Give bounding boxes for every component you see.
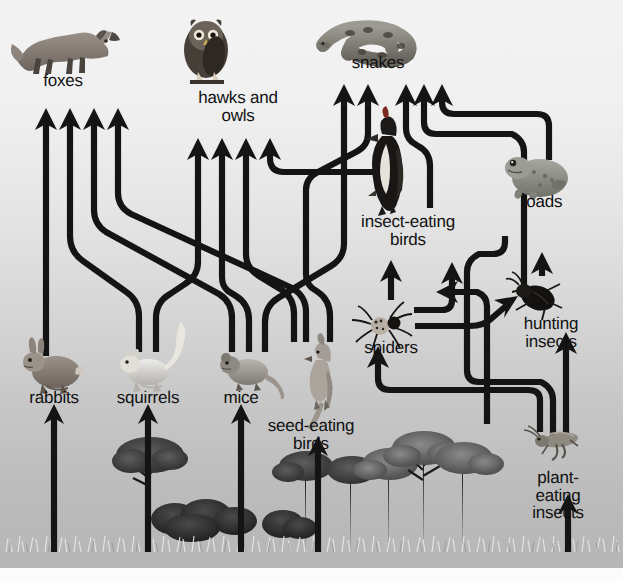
label-squirrels: squirrels (117, 389, 179, 407)
label-foxes: foxes (43, 72, 83, 90)
beetle-icon (506, 272, 562, 320)
label-rabbits: rabbits (29, 389, 79, 407)
food-web-diagram: foxes hawks and owls snakes toads insect… (0, 0, 623, 581)
label-hawks-and-owls: hawks and owls (198, 89, 277, 124)
label-seed-eating-birds: seed-eating birds (268, 417, 355, 452)
label-spiders: spiders (364, 339, 417, 357)
owl-icon (184, 20, 228, 84)
grasshopper-icon (524, 426, 579, 460)
label-hunting-insects: hunting insects (524, 315, 578, 350)
woodpecker-icon (366, 106, 403, 216)
rabbit-icon (23, 337, 84, 394)
fox-icon (11, 30, 120, 74)
label-insect-eating-birds: insect-eating birds (361, 213, 455, 248)
label-snakes: snakes (352, 54, 405, 72)
label-toads: toads (522, 193, 563, 211)
squirrel-icon (120, 322, 185, 392)
label-plant-eating-insects: plant-eating insects (526, 469, 591, 522)
label-mice: mice (223, 389, 258, 407)
